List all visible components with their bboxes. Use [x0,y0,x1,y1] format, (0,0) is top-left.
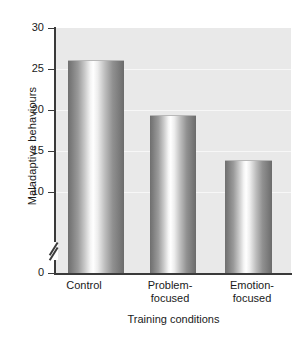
y-tick-mark-20 [48,110,55,111]
y-tick-mark-25 [48,69,55,70]
bar-control[interactable] [68,60,124,273]
y-tick-label-20: 20 [14,104,44,115]
x-tick-label-emotion-focused-line1: Emotion- [230,279,274,291]
x-tick-label-control: Control [44,279,124,292]
plot-area [56,28,291,273]
axis-break-icon [46,243,62,259]
y-tick-mark-15 [48,151,55,152]
x-axis-line [54,273,292,275]
bar-problem-focused[interactable] [150,115,196,273]
x-tick-label-control-line1: Control [66,279,101,291]
x-tick-label-emotion-focused: Emotion- focused [212,279,292,305]
y-tick-mark-0 [48,273,55,274]
y-tick-label-15: 15 [14,145,44,156]
x-axis-title: Training conditions [56,313,291,325]
y-tick-label-25: 25 [14,63,44,74]
y-tick-mark-30 [48,28,55,29]
x-tick-label-problem-focused-line1: Problem- [148,279,193,291]
y-tick-label-30: 30 [14,22,44,33]
x-tick-label-problem-focused-line2: focused [130,292,210,305]
y-tick-label-0: 0 [14,267,44,278]
y-tick-label-10: 10 [14,186,44,197]
x-tick-label-problem-focused: Problem- focused [130,279,210,305]
y-tick-mark-10 [48,192,55,193]
bar-chart-figure: Maladaptive behaviours 30 25 20 15 10 0 … [0,0,306,339]
x-tick-label-emotion-focused-line2: focused [212,292,292,305]
bar-emotion-focused[interactable] [225,160,272,273]
